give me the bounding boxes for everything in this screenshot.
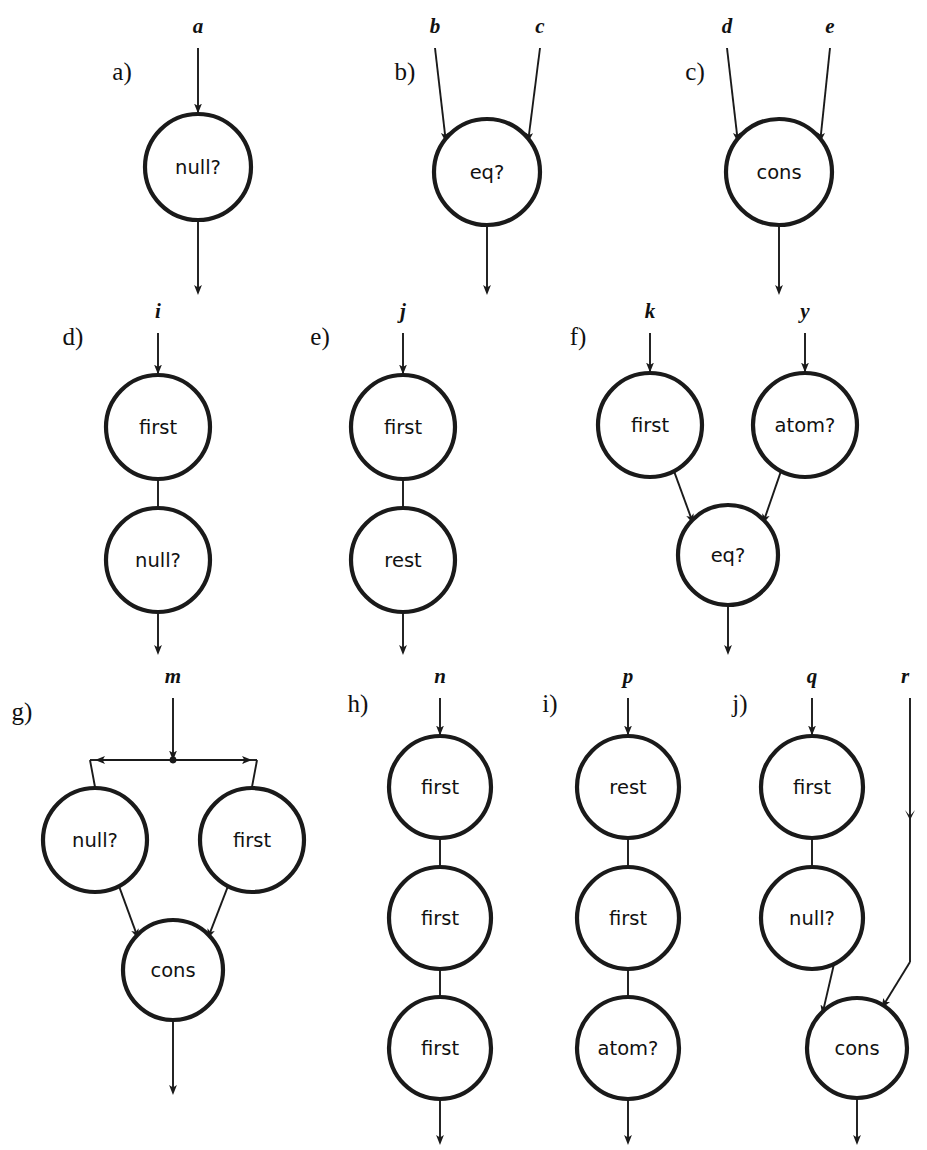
variable-label-m: m [165, 664, 181, 688]
merge-edge-f-1 [764, 471, 781, 519]
node-label-e-0: first [384, 416, 422, 439]
nodes-layer [43, 114, 907, 1099]
variable-label-r: r [901, 664, 910, 688]
input-edge-c-d [727, 48, 737, 138]
dataflow-diagram-canvas: a)anull?b)bceq?c)deconsd)ifirstnull?e)jf… [0, 0, 927, 1150]
merge-edge-g-1 [209, 886, 228, 934]
panel-label-j: j) [731, 690, 747, 718]
node-label-i-0: rest [609, 776, 647, 799]
variable-label-i: i [155, 299, 161, 323]
fanout-drop-right-g [252, 760, 257, 787]
node-label-j-1: null? [789, 907, 835, 930]
input-edge-b-b [435, 48, 445, 138]
panel-label-g: g) [12, 698, 33, 726]
variable-label-a: a [193, 14, 204, 38]
figure-sheet: a)anull?b)bceq?c)deconsd)ifirstnull?e)jf… [0, 0, 927, 1150]
node-label-i-2: atom? [598, 1037, 659, 1060]
variable-label-q: q [807, 664, 818, 688]
node-label-d-0: first [139, 416, 177, 439]
node-label-f-0: first [631, 414, 669, 437]
panel-label-c: c) [685, 58, 704, 86]
variable-label-k: k [645, 299, 656, 323]
merge-edge-g-0 [119, 886, 137, 934]
node-label-g-2: cons [150, 959, 195, 982]
node-label-a-0: null? [175, 156, 221, 179]
node-label-h-0: first [421, 776, 459, 799]
node-label-c-0: cons [756, 161, 801, 184]
bypass-into-cons-edge-j [884, 962, 910, 1004]
node-label-j-0: first [793, 776, 831, 799]
node-label-j-2: cons [834, 1037, 879, 1060]
node-label-g-1: first [233, 829, 271, 852]
node-label-h-2: first [421, 1037, 459, 1060]
node-label-f-2: eq? [711, 544, 746, 567]
input-edge-b-c [529, 48, 540, 138]
variable-label-e: e [825, 14, 834, 38]
node-label-f-1: atom? [775, 414, 836, 437]
panel-label-i: i) [542, 690, 557, 718]
node-label-h-1: first [421, 907, 459, 930]
node-label-i-1: first [609, 907, 647, 930]
fanout-drop-left-g [90, 760, 95, 787]
node-label-g-0: null? [72, 829, 118, 852]
panel-label-a: a) [112, 58, 131, 86]
variable-label-p: p [621, 664, 634, 688]
variable-label-c: c [535, 14, 545, 38]
variable-label-n: n [434, 664, 446, 688]
panel-label-d: d) [63, 323, 84, 351]
panel-label-e: e) [310, 323, 329, 351]
variable-label-d: d [722, 14, 733, 38]
fanout-junction-dot-g [170, 757, 177, 764]
variable-label-j: j [397, 299, 406, 323]
panel-label-h: h) [348, 690, 369, 718]
input-edge-c-e [821, 48, 830, 138]
variable-label-y: y [797, 299, 810, 323]
panel-label-f: f) [570, 323, 587, 351]
node-label-b-0: eq? [470, 161, 505, 184]
panel-label-b: b) [395, 58, 416, 86]
merge-edge-f-0 [674, 471, 692, 519]
node-label-d-1: null? [135, 549, 181, 572]
node-label-e-1: rest [384, 549, 422, 572]
variable-label-b: b [430, 14, 441, 38]
